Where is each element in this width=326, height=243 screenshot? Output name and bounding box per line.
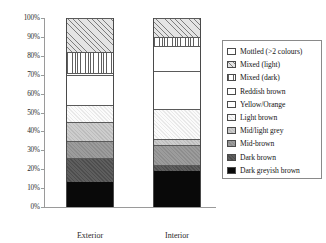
bar-segment-exterior-mid-light-grey[interactable]: [67, 122, 113, 141]
legend-item-mid-brown[interactable]: Mid-brown: [227, 137, 318, 150]
x-axis-label-interior: Interior: [117, 231, 237, 240]
legend-item-mixed-light[interactable]: Mixed (light): [227, 58, 318, 71]
bar-interior[interactable]: [153, 18, 201, 207]
bar-segment-interior-mid-light-grey[interactable]: [154, 139, 200, 145]
bar-segment-interior-mixed-dark[interactable]: [154, 37, 200, 46]
bar-segment-interior-reddish-brown[interactable]: [154, 46, 200, 71]
bar-segment-exterior-dark-greyish-brown[interactable]: [67, 182, 113, 207]
legend-label: Yellow/Orange: [240, 100, 285, 109]
legend-item-mottled[interactable]: Mottled (>2 colours): [227, 45, 318, 58]
legend-label: Dark brown: [240, 153, 276, 162]
bar-segment-interior-mid-brown[interactable]: [154, 145, 200, 166]
legend-swatch-yellow-orange-icon: [227, 101, 236, 108]
legend-swatch-mid-light-grey-icon: [227, 127, 236, 134]
legend-swatch-mixed-dark-icon: [227, 74, 236, 81]
bar-segment-exterior-yellow-orange[interactable]: [67, 75, 113, 105]
legend-swatch-mixed-light-icon: [227, 61, 236, 68]
legend-label: Mixed (light): [240, 60, 280, 69]
y-axis-tick-0: 0%: [0, 202, 44, 212]
legend-item-mixed-dark[interactable]: Mixed (dark): [227, 71, 318, 84]
y-axis-tick-20: 20%: [0, 164, 44, 174]
legend-label: Mid-brown: [240, 139, 274, 148]
plot-area: Exterior Interior: [44, 18, 210, 207]
legend-swatch-dark-brown-icon: [227, 154, 236, 161]
legend-item-light-brown[interactable]: Light brown: [227, 111, 318, 124]
y-axis-tick-label: 50%: [0, 108, 44, 118]
y-axis-tick-100: 100%: [0, 13, 44, 23]
bar-segment-exterior-mixed-light[interactable]: [67, 18, 113, 52]
legend-swatch-reddish-brown-icon: [227, 88, 236, 95]
legend-label: Mixed (dark): [240, 73, 280, 82]
bar-segment-interior-mixed-light[interactable]: [154, 18, 200, 37]
legend-item-dark-greyish-brown[interactable]: Dark greyish brown: [227, 164, 318, 177]
y-axis-tick-label: 80%: [0, 51, 44, 61]
bar-segment-interior-yellow-orange[interactable]: [154, 71, 200, 109]
y-axis-tick-60: 60%: [0, 89, 44, 99]
y-axis-tick-70: 70%: [0, 70, 44, 80]
y-axis-tick-label: 20%: [0, 164, 44, 174]
stacked-bar-chart: 100%90%80%70%60%50%40%30%20%10%0% Exteri…: [0, 0, 326, 243]
y-axis-tick-40: 40%: [0, 126, 44, 136]
y-axis-tick-label: 60%: [0, 89, 44, 99]
x-axis-line: [44, 207, 216, 208]
bar-segment-exterior-mid-brown[interactable]: [67, 141, 113, 158]
legend-item-mid-light-grey[interactable]: Mid/light grey: [227, 124, 318, 137]
y-axis-tick-label: 90%: [0, 32, 44, 42]
bar-exterior[interactable]: [66, 18, 114, 207]
bar-segment-exterior-mixed-dark[interactable]: [67, 52, 113, 73]
chart-legend: Mottled (>2 colours)Mixed (light)Mixed (…: [222, 40, 322, 179]
y-axis-tick-label: 40%: [0, 126, 44, 136]
legend-label: Light brown: [240, 113, 277, 122]
bar-segment-interior-light-brown[interactable]: [154, 109, 200, 139]
legend-label: Dark greyish brown: [240, 166, 300, 175]
y-axis-tick-80: 80%: [0, 51, 44, 61]
y-axis-tick-label: 0%: [0, 202, 44, 212]
legend-swatch-light-brown-icon: [227, 114, 236, 121]
legend-label: Mid/light grey: [240, 126, 283, 135]
legend-swatch-dark-greyish-brown-icon: [227, 167, 236, 174]
y-axis-tick-label: 100%: [0, 13, 44, 23]
bar-segment-exterior-light-brown[interactable]: [67, 105, 113, 122]
y-axis-tick-label: 10%: [0, 183, 44, 193]
legend-label: Mottled (>2 colours): [240, 47, 302, 56]
y-axis-tick-label: 70%: [0, 70, 44, 80]
legend-swatch-mid-brown-icon: [227, 140, 236, 147]
legend-label: Reddish brown: [240, 87, 286, 96]
y-axis-tick-10: 10%: [0, 183, 44, 193]
legend-item-reddish-brown[interactable]: Reddish brown: [227, 85, 318, 98]
legend-swatch-mottled-icon: [227, 48, 236, 55]
legend-item-dark-brown[interactable]: Dark brown: [227, 151, 318, 164]
y-axis-tick-50: 50%: [0, 108, 44, 118]
y-axis-tick-30: 30%: [0, 145, 44, 155]
bar-segment-exterior-dark-brown[interactable]: [67, 158, 113, 183]
bar-segment-exterior-reddish-brown[interactable]: [67, 73, 113, 75]
y-axis-tick-90: 90%: [0, 32, 44, 42]
bar-segment-interior-dark-brown[interactable]: [154, 165, 200, 171]
y-axis-tick-label: 30%: [0, 145, 44, 155]
bar-segment-interior-dark-greyish-brown[interactable]: [154, 171, 200, 207]
legend-item-yellow-orange[interactable]: Yellow/Orange: [227, 98, 318, 111]
